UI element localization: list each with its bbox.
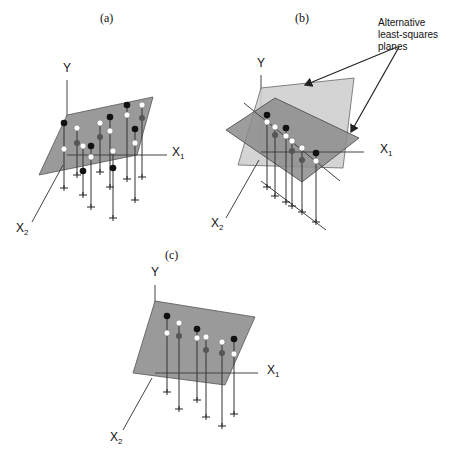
panel-a-x2-label: X2 xyxy=(16,221,29,237)
panel-c-x1-label: X1 xyxy=(267,363,280,379)
panel-b-x2-label: X2 xyxy=(211,216,224,232)
panel-a-caption: (a) xyxy=(100,11,113,25)
panel-c-regression-plane xyxy=(133,301,255,385)
panel-c-caption: (c) xyxy=(165,248,178,262)
annotation-line-1: Alternative xyxy=(378,17,426,28)
panel-a: (a) Y X1 X2 xyxy=(16,11,185,237)
panel-a-x1-label: X1 xyxy=(172,145,185,161)
panel-b: (b) Y X1 X2 xyxy=(211,11,438,232)
panel-c-x2-label: X2 xyxy=(110,430,123,446)
annotation-line-2: least-squares xyxy=(378,29,438,40)
annotation-line-3: planes xyxy=(378,41,407,52)
panel-a-y-label: Y xyxy=(63,61,71,75)
panel-c-y-label: Y xyxy=(151,265,159,279)
least-squares-planes-figure: (a) Y X1 X2 xyxy=(0,0,452,457)
panel-a-regression-plane xyxy=(39,97,153,175)
panel-b-y-label: Y xyxy=(257,56,265,70)
panel-b-x1-label: X1 xyxy=(380,142,393,158)
panel-b-caption: (b) xyxy=(295,11,309,25)
arrow-to-dark-plane-icon xyxy=(351,47,399,132)
panel-c-x2-axis xyxy=(123,378,152,430)
panel-c: (c) Y X1 X2 xyxy=(110,248,280,446)
panel-b-x2-axis xyxy=(226,160,259,218)
